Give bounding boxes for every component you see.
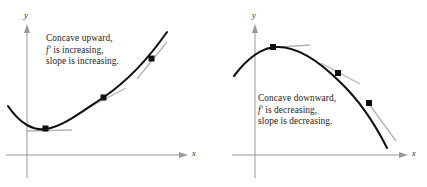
point-1 xyxy=(43,126,49,132)
caption-concave-downward: Concave downward, f′ is decreasing, slop… xyxy=(258,93,336,128)
y-axis-label: y xyxy=(24,10,28,20)
x-axis-arrowhead xyxy=(399,152,408,158)
point-1 xyxy=(270,44,276,50)
y-axis-label: y xyxy=(252,10,256,20)
caption-line-1: Concave downward, xyxy=(258,93,336,105)
y-axis-arrowhead xyxy=(252,24,258,33)
x-axis xyxy=(232,152,408,158)
point-3 xyxy=(366,100,372,106)
caption-line-2-rest: is increasing, xyxy=(51,45,104,55)
tangent-point-1 xyxy=(26,130,72,131)
concavity-figure: y x Concave upward, f′ is increasing, sl… xyxy=(0,0,427,187)
caption-concave-upward: Concave upward, f′ is increasing, slope … xyxy=(46,33,119,68)
caption-line-3: slope is increasing. xyxy=(46,56,119,68)
x-axis-label: x xyxy=(192,148,196,158)
caption-line-2: f′ is decreasing, xyxy=(258,105,336,117)
panel-concave-upward: y x Concave upward, f′ is increasing, sl… xyxy=(0,0,213,187)
y-axis-arrowhead xyxy=(24,24,30,33)
point-2 xyxy=(335,70,341,76)
caption-line-3: slope is decreasing. xyxy=(258,116,336,128)
x-axis-arrowhead xyxy=(179,152,188,158)
x-axis xyxy=(6,152,188,158)
point-2 xyxy=(101,95,107,101)
x-axis-label: x xyxy=(412,148,416,158)
caption-line-1: Concave upward, xyxy=(46,33,119,45)
point-3 xyxy=(149,56,155,62)
caption-line-2-rest: is decreasing, xyxy=(263,105,317,115)
concave-upward-diagram xyxy=(0,0,213,187)
panel-concave-downward: y x Concave downward, f′ is decreasing, … xyxy=(214,0,427,187)
caption-line-2: f′ is increasing, xyxy=(46,45,119,57)
